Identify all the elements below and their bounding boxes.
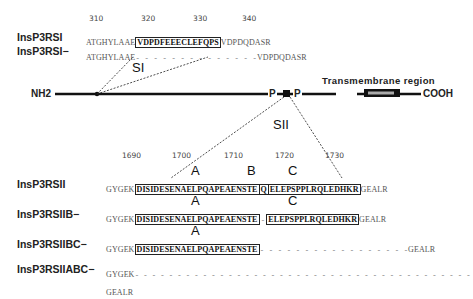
seq-segment-a: DISIDESENAELPQAPEAENSTE bbox=[135, 244, 260, 255]
seq-post: GEALR bbox=[361, 185, 388, 194]
seq-segment-c: ELEPSPPLRQLEDHKR bbox=[269, 184, 361, 195]
seq-pre: ATGHYLAAE bbox=[86, 53, 135, 62]
sii-label: SII bbox=[273, 117, 289, 132]
nh2-terminus: NH2 bbox=[31, 88, 51, 99]
tick-320: 320 bbox=[141, 14, 155, 23]
tick-1690: 1690 bbox=[122, 151, 141, 160]
seq-segment-c: ELEPSPPLRQLEDHKR bbox=[266, 214, 359, 225]
tick-340: 340 bbox=[242, 14, 256, 23]
row-label-insp3rsi-minus: InsP3RSI− bbox=[17, 45, 69, 57]
tick-1710: 1710 bbox=[224, 151, 243, 160]
seq-pre: GYGEK bbox=[106, 215, 135, 224]
tick-1700: 1700 bbox=[172, 151, 191, 160]
sequence-insp3rsi-minus: ATGHYLAAE- - - - - - - - - - - - - -VDPD… bbox=[86, 46, 307, 64]
segment-a-label-row3: A bbox=[191, 223, 200, 238]
cooh-terminus: COOH bbox=[423, 88, 453, 99]
seq-deletion: - - - - - - - - - - - - - - bbox=[135, 53, 257, 62]
seq-deletion: - - - - - - - - - - - - - - - - - bbox=[260, 245, 409, 254]
seq-deletion: - - - - - - - - - - - - - - - - - - - - … bbox=[135, 270, 471, 279]
tick-330: 330 bbox=[193, 14, 207, 23]
tick-1730: 1730 bbox=[325, 151, 344, 160]
row-label-insp3rsiiabc-minus: InsP3RSIIABC− bbox=[17, 263, 94, 275]
seq-pre: GYGEK bbox=[106, 245, 135, 254]
tick-310: 310 bbox=[89, 14, 103, 23]
segment-a-label-row2: A bbox=[191, 193, 200, 208]
row-label-insp3rsi: InsP3RSI bbox=[17, 31, 63, 43]
si-label: SI bbox=[132, 60, 144, 75]
segment-b-label: B bbox=[247, 163, 256, 178]
seq-segment-b: Q bbox=[260, 184, 269, 195]
sequence-insp3rsiib-minus: GYGEKDISIDESENAELPQAPEAENSTE-ELEPSPPLRQL… bbox=[106, 208, 386, 226]
tick-1720: 1720 bbox=[275, 151, 294, 160]
row-label-insp3rsii: InsP3RSII bbox=[17, 178, 65, 190]
segment-c-label-row2: C bbox=[288, 193, 297, 208]
row-label-insp3rsiibc-minus: InsP3RSIIBC− bbox=[17, 238, 87, 250]
segment-a-label: A bbox=[191, 163, 200, 178]
row-label-insp3rsiib-minus: InsP3RSIIB− bbox=[17, 208, 79, 220]
segment-c-label: C bbox=[288, 163, 297, 178]
phosphorylation-site-1: P bbox=[268, 88, 277, 99]
seq-post: VDPDQDASR bbox=[257, 53, 307, 62]
seq-pre: GYGEK bbox=[106, 185, 135, 194]
seq-post: GEALR bbox=[106, 288, 133, 297]
sequence-insp3rsiibc-minus: GYGEKDISIDESENAELPQAPEAENSTE- - - - - - … bbox=[106, 238, 435, 256]
seq-post: GEALR bbox=[408, 245, 435, 254]
seq-pre: GYGEK bbox=[106, 270, 135, 279]
sequence-insp3rsii: GYGEKDISIDESENAELPQAPEAENSTEQELEPSPPLRQL… bbox=[106, 178, 388, 196]
seq-post: GEALR bbox=[359, 215, 386, 224]
sequence-insp3rsiiabc-minus: GYGEK- - - - - - - - - - - - - - - - - -… bbox=[106, 263, 473, 299]
transmembrane-region-label: Transmembrane region bbox=[322, 75, 435, 86]
phosphorylation-site-2: P bbox=[293, 88, 302, 99]
